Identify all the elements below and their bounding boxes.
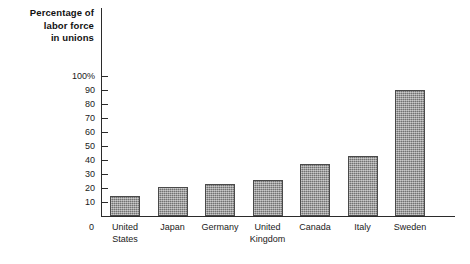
bar	[110, 196, 140, 216]
y-axis-tick	[102, 174, 108, 175]
y-axis-tick	[102, 202, 108, 203]
y-axis-tick	[102, 118, 108, 119]
y-axis-title: Percentage of labor force in unions	[8, 7, 94, 45]
bar	[300, 164, 330, 216]
x-axis-line	[101, 216, 455, 217]
y-axis-tick	[102, 132, 108, 133]
bar	[395, 90, 425, 216]
y-axis-tick-label: 30	[53, 170, 95, 179]
y-axis-tick-label: 40	[53, 156, 95, 165]
y-axis-title-line-2: labor force	[8, 20, 94, 33]
bar	[158, 187, 188, 216]
y-axis-tick-label: 10	[53, 198, 95, 207]
x-axis-category-line: Sweden	[380, 222, 440, 234]
y-axis-zero-label: 0	[70, 222, 94, 234]
y-axis-tick	[102, 90, 108, 91]
bar	[205, 184, 235, 216]
bar	[348, 156, 378, 216]
bar	[253, 180, 283, 216]
x-axis-category-label: Sweden	[380, 222, 440, 234]
y-axis-tick	[102, 76, 108, 77]
y-axis-tick-label: 60	[53, 128, 95, 137]
y-axis-tick	[102, 104, 108, 105]
y-axis-tick-label: 50	[53, 142, 95, 151]
x-axis-category-line: States	[95, 234, 155, 246]
y-axis-tick-label: 20	[53, 184, 95, 193]
y-axis-tick	[102, 146, 108, 147]
y-axis-tick	[102, 160, 108, 161]
y-axis-title-line-1: Percentage of	[8, 7, 94, 20]
y-axis-tick-label: 90	[53, 86, 95, 95]
y-axis-tick	[102, 188, 108, 189]
y-axis-tick-label: 100%	[53, 72, 95, 81]
y-axis-tick-label: 80	[53, 100, 95, 109]
x-axis-category-line: Kingdom	[238, 234, 298, 246]
bar-chart: Percentage of labor force in unions 100%…	[0, 0, 470, 264]
y-axis-title-line-3: in unions	[8, 32, 94, 45]
y-axis-tick-label: 70	[53, 114, 95, 123]
y-axis-line	[101, 8, 102, 217]
